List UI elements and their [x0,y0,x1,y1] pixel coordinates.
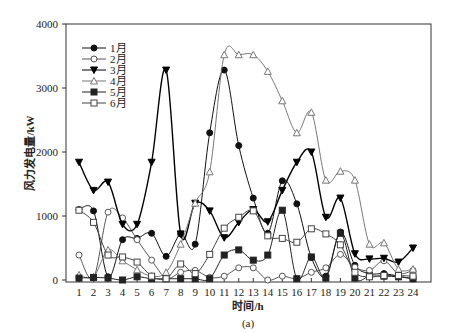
x-tick-label: 12 [233,286,244,298]
line-chart: 01000200030004000 1234567891011121314151… [0,0,452,333]
open-square-marker-icon [337,242,343,248]
filled-square-marker-icon [91,274,97,280]
y-tick-label: 2000 [36,146,59,158]
open-circle-marker-icon [323,265,329,271]
x-tick-label: 24 [408,286,420,298]
open-circle-marker-icon [76,252,82,258]
open-circle-marker-icon [236,265,242,271]
x-tick-label: 22 [378,286,389,298]
open-square-marker-icon [163,276,169,282]
x-tick-label: 11 [219,286,230,298]
open-square-marker-icon [120,254,126,260]
open-square-marker-icon [410,273,416,279]
filled-square-marker-icon [265,252,271,258]
open-triangle-marker-icon [308,109,315,116]
filled-triangle-down-marker-icon [134,221,141,228]
open-circle-marker-icon [149,257,155,263]
filled-circle-marker-icon [294,201,300,207]
y-tick-label: 1000 [36,210,59,222]
x-tick-label: 19 [335,286,347,298]
x-tick-label: 7 [163,286,169,298]
open-square-marker-icon [76,207,82,213]
filled-circle-marker-icon [163,253,169,259]
open-circle-marker-icon [91,56,97,62]
series-2 [76,208,416,283]
open-square-marker-icon [134,259,140,265]
series-4 [76,46,417,280]
filled-triangle-down-marker-icon [206,208,213,215]
open-square-marker-icon [207,251,213,257]
x-tick-label: 4 [120,286,126,298]
open-square-marker-icon [352,269,358,275]
x-tick-label: 17 [306,286,318,298]
open-square-marker-icon [105,252,111,258]
x-tick-label: 18 [320,286,332,298]
filled-square-marker-icon [221,252,227,258]
open-triangle-marker-icon [264,68,271,75]
open-circle-marker-icon [221,273,227,279]
legend-label: 6月 [110,97,127,109]
filled-square-marker-icon [250,257,256,263]
filled-circle-marker-icon [279,178,285,184]
open-circle-marker-icon [279,273,285,279]
open-circle-marker-icon [265,277,271,283]
open-square-marker-icon [323,231,329,237]
filled-triangle-down-marker-icon [105,179,112,186]
filled-square-marker-icon [120,277,126,283]
open-circle-marker-icon [337,251,343,257]
filled-circle-marker-icon [192,241,198,247]
x-tick-label: 6 [149,286,155,298]
open-square-marker-icon [192,271,198,277]
filled-square-marker-icon [294,276,300,282]
filled-square-marker-icon [105,275,111,281]
open-triangle-marker-icon [134,266,141,273]
filled-square-marker-icon [91,89,97,95]
open-circle-marker-icon [178,269,184,275]
legend: 1月2月3月4月5月6月 [82,42,127,109]
open-triangle-marker-icon [177,241,184,248]
x-tick-label: 2 [91,286,97,298]
open-square-marker-icon [265,233,271,239]
x-axis-title: 时间/h [232,299,263,312]
filled-circle-marker-icon [149,230,155,236]
x-tick-label: 9 [192,286,198,298]
x-tick-label: 3 [105,286,111,298]
x-tick-label: 15 [277,286,289,298]
series-5 [76,207,416,283]
open-square-marker-icon [294,239,300,245]
filled-circle-marker-icon [236,143,242,149]
open-triangle-marker-icon [206,168,213,175]
x-tick-label: 20 [349,286,361,298]
open-circle-marker-icon [308,269,314,275]
x-tick-label: 21 [364,286,375,298]
x-axis: 123456789101112131415161718192021222324 [76,278,419,298]
x-tick-label: 5 [134,286,140,298]
y-tick-label: 4000 [36,18,59,30]
y-axis: 01000200030004000 [36,18,66,286]
open-square-marker-icon [236,214,242,220]
y-tick-label: 3000 [36,82,59,94]
filled-square-marker-icon [207,276,213,282]
filled-square-marker-icon [352,275,358,281]
filled-square-marker-icon [76,275,82,281]
filled-circle-marker-icon [91,208,97,214]
x-tick-label: 13 [248,286,260,298]
x-tick-label: 1 [76,286,82,298]
open-square-marker-icon [395,273,401,279]
filled-square-marker-icon [279,207,285,213]
filled-square-marker-icon [134,274,140,280]
open-triangle-marker-icon [366,241,373,248]
open-circle-marker-icon [105,209,111,215]
open-triangle-marker-icon [221,51,228,58]
filled-triangle-down-marker-icon [279,187,286,194]
filled-square-marker-icon [337,230,343,236]
open-square-marker-icon [366,274,372,280]
filled-square-marker-icon [178,276,184,282]
open-triangle-marker-icon [279,97,286,104]
x-tick-label: 10 [204,286,216,298]
open-square-marker-icon [91,100,97,106]
filled-circle-marker-icon [207,130,213,136]
series-1 [76,67,416,282]
open-square-marker-icon [149,273,155,279]
open-circle-marker-icon [366,267,372,273]
